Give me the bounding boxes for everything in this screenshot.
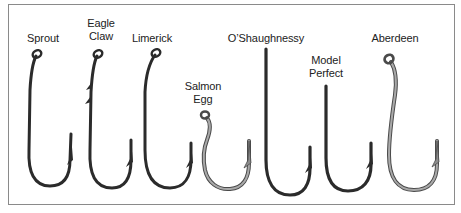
label-line: Eagle [87, 17, 115, 30]
label-line: Egg [185, 93, 222, 106]
label-eagle-claw: Eagle Claw [87, 17, 115, 43]
sprout-hook-icon [29, 49, 73, 186]
label-sprout: Sprout [27, 32, 59, 45]
label-line: Perfect [309, 67, 343, 80]
eagle-claw-hook-icon [85, 49, 133, 188]
label-oshaughnessy: O’Shaughnessy [228, 32, 304, 45]
label-line: Sprout [27, 32, 59, 44]
label-line: Salmon [185, 80, 222, 93]
limerick-hook-icon [145, 48, 193, 188]
model-perfect-hook-icon [326, 86, 373, 191]
label-aberdeen: Aberdeen [372, 32, 419, 45]
oshaughnessy-hook-icon [266, 49, 312, 195]
label-line: Claw [87, 30, 115, 43]
label-line: Aberdeen [372, 32, 419, 44]
salmon-egg-hook-icon [201, 112, 251, 190]
label-model-perfect: Model Perfect [309, 54, 343, 80]
label-line: Model [309, 54, 343, 67]
aberdeen-hook-icon [383, 53, 439, 190]
label-limerick: Limerick [132, 32, 172, 45]
label-line: O’Shaughnessy [228, 32, 304, 44]
label-salmon-egg: Salmon Egg [185, 80, 222, 106]
label-line: Limerick [132, 32, 172, 44]
